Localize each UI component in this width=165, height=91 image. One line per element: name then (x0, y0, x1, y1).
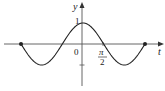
right-endpoint-dot (143, 42, 147, 46)
y-tick-label-one: 1 (75, 16, 80, 26)
x-axis-label: t (158, 46, 161, 57)
origin-label: 0 (74, 47, 79, 57)
cosine-graph: y t 1 0 π 2 (0, 0, 165, 91)
y-axis-label: y (72, 1, 78, 12)
y-axis-arrow-icon (80, 2, 85, 8)
x-tick-label-two: 2 (100, 57, 105, 67)
x-tick-label-pi: π (99, 47, 104, 57)
left-endpoint-dot (19, 42, 23, 46)
